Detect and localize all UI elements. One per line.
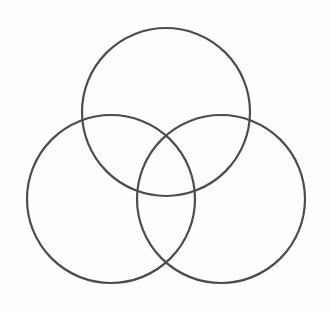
venn-diagram-svg — [0, 0, 330, 312]
left-circle — [27, 115, 195, 283]
venn-diagram-canvas — [0, 0, 330, 312]
right-circle — [137, 115, 305, 283]
top-circle — [82, 28, 250, 196]
